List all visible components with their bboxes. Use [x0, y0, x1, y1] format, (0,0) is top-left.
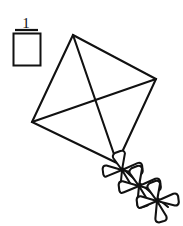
- kite-figure: 1: [0, 0, 183, 226]
- answer-box[interactable]: [14, 34, 41, 66]
- question-number: 1: [22, 15, 30, 31]
- worksheet-page: 1: [0, 0, 183, 226]
